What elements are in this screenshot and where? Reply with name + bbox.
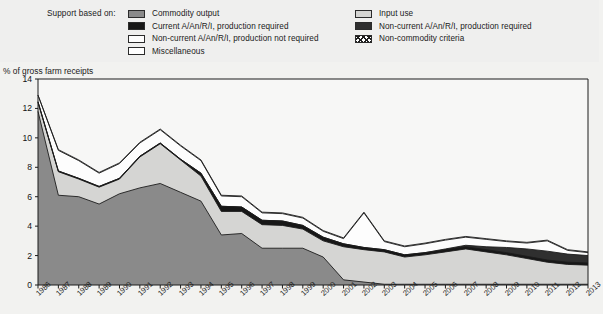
legend-item-6[interactable]: Non-commodity criteria <box>355 34 464 43</box>
y-tick-label: 12 <box>22 103 32 113</box>
legend-item-label: Non-current A/An/R/I, production not req… <box>152 34 319 43</box>
legend-item-label: Commodity output <box>152 9 219 18</box>
y-tick-label: 6 <box>27 192 32 202</box>
legend-item-4[interactable]: Input use <box>355 9 413 18</box>
y-tick-label: 2 <box>27 251 32 261</box>
legend-item-label: Non-current A/An/R/I, production require… <box>379 22 532 31</box>
legend-item-1[interactable]: Current A/An/R/I, production required <box>128 22 289 31</box>
legend-panel: Support based on: Commodity outputCurren… <box>0 0 599 62</box>
chart-plot-area: 02468101214 1986198719881989199019911992… <box>0 62 599 314</box>
legend-title: Support based on: <box>47 9 116 18</box>
legend-swatch-noncurrent-not-required <box>128 35 145 43</box>
y-tick-label: 0 <box>27 280 32 290</box>
legend-item-label: Input use <box>379 9 413 18</box>
y-tick-label: 8 <box>27 162 32 172</box>
legend-swatch-input-use <box>355 10 372 18</box>
y-tick-label: 10 <box>22 133 32 143</box>
legend-item-0[interactable]: Commodity output <box>128 9 219 18</box>
y-tick-label: 4 <box>27 221 32 231</box>
legend-swatch-commodity-output <box>128 10 145 18</box>
legend-swatch-current-anri <box>128 22 145 30</box>
stacked-area-chart: 02468101214 <box>0 62 599 314</box>
legend-swatch-non-commodity-criteria <box>355 35 372 43</box>
legend-item-label: Non-commodity criteria <box>379 34 464 43</box>
legend-item-label: Current A/An/R/I, production required <box>152 22 289 31</box>
legend-item-label: Miscellaneous <box>152 47 205 56</box>
legend-swatch-noncurrent-required <box>355 22 372 30</box>
legend-swatch-miscellaneous <box>128 47 145 55</box>
legend-item-2[interactable]: Non-current A/An/R/I, production not req… <box>128 34 319 43</box>
legend-item-3[interactable]: Miscellaneous <box>128 47 205 56</box>
y-tick-label: 14 <box>22 74 32 84</box>
legend-item-5[interactable]: Non-current A/An/R/I, production require… <box>355 22 532 31</box>
